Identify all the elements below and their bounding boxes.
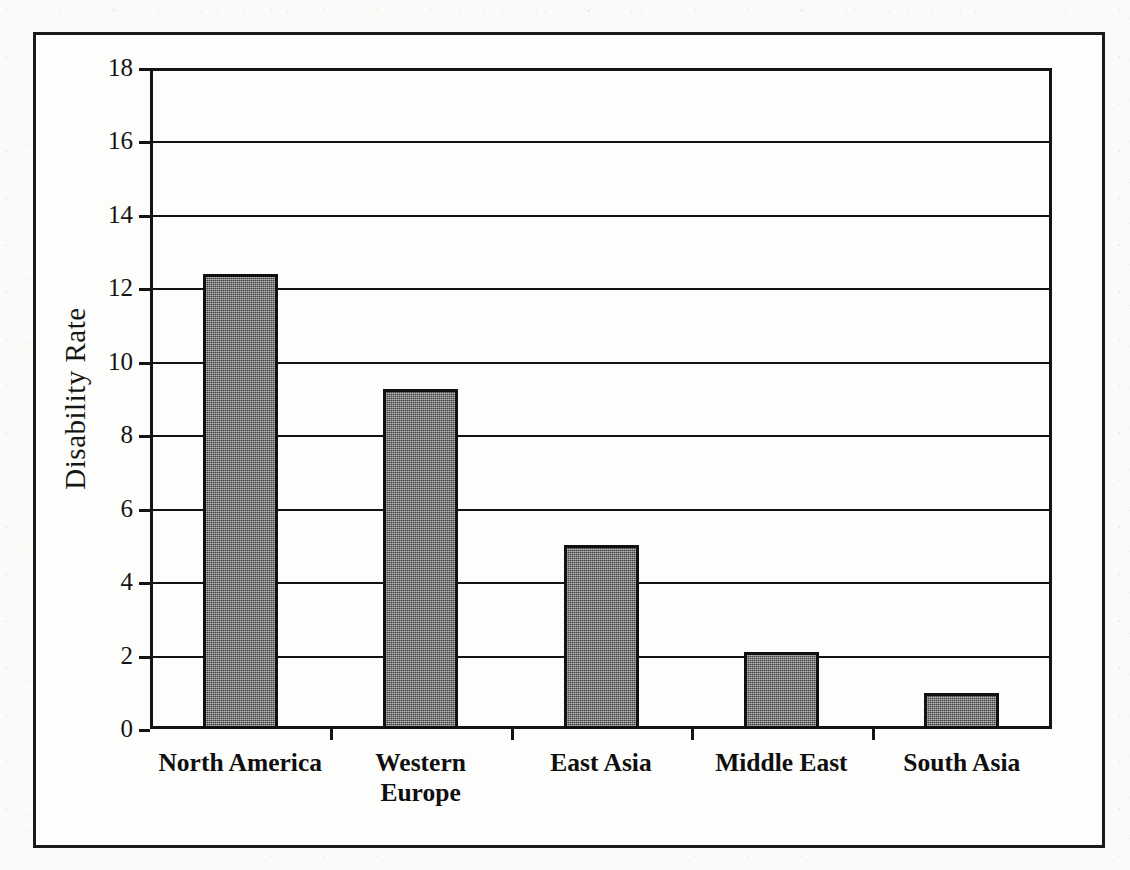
gridline (150, 362, 1052, 364)
gridline (150, 288, 1052, 290)
y-tick-mark (139, 288, 150, 291)
plot-right-border (1049, 68, 1052, 729)
gridline (150, 68, 1052, 71)
y-tick-label: 18 (108, 54, 133, 82)
y-tick-mark (139, 435, 150, 438)
y-tick-label: 14 (108, 201, 133, 229)
x-axis-category-label: North America (150, 748, 330, 778)
y-tick-label: 8 (121, 421, 134, 449)
x-tick-mark (872, 729, 875, 740)
x-tick-mark (691, 729, 694, 740)
y-axis-title: Disability Rate (56, 68, 94, 729)
y-tick-label: 4 (121, 568, 134, 596)
gridline (150, 435, 1052, 437)
gridline (150, 215, 1052, 217)
y-tick-label: 6 (121, 495, 134, 523)
y-tick-label: 16 (108, 127, 133, 155)
y-tick-label: 10 (108, 348, 133, 376)
y-tick-mark (139, 729, 150, 732)
x-axis-category-label-line: Western (330, 748, 510, 778)
x-axis-category-label: Middle East (691, 748, 871, 778)
y-tick-mark (139, 141, 150, 144)
y-tick-label: 0 (121, 715, 134, 743)
chart-page: Disability Rate 024681012141618 North Am… (0, 0, 1130, 870)
y-tick-label: 2 (121, 642, 134, 670)
y-tick-label: 12 (108, 274, 133, 302)
bar (203, 274, 278, 729)
x-axis-category-label-line: East Asia (511, 748, 691, 778)
x-axis-category-label-line: Middle East (691, 748, 871, 778)
gridline (150, 141, 1052, 143)
x-axis-category-label: East Asia (511, 748, 691, 778)
x-axis-category-label-line: South Asia (872, 748, 1052, 778)
y-tick-mark (139, 656, 150, 659)
plot-area: 024681012141618 (150, 68, 1052, 729)
x-tick-mark (511, 729, 514, 740)
x-axis-category-label: WesternEurope (330, 748, 510, 808)
gridline (150, 509, 1052, 511)
bar (744, 652, 819, 729)
y-tick-mark (139, 362, 150, 365)
y-tick-mark (139, 215, 150, 218)
x-axis-category-label: South Asia (872, 748, 1052, 778)
bar (924, 693, 999, 729)
bar (564, 545, 639, 729)
bar (383, 389, 458, 729)
y-tick-mark (139, 509, 150, 512)
y-tick-mark (139, 582, 150, 585)
y-axis-line (150, 68, 153, 729)
x-tick-mark (330, 729, 333, 740)
y-tick-mark (139, 68, 150, 71)
x-axis-category-label-line: North America (150, 748, 330, 778)
x-axis-category-label-line: Europe (330, 778, 510, 808)
